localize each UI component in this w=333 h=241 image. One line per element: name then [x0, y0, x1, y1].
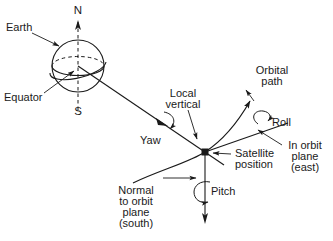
pitch-rotation-arc	[194, 182, 210, 203]
roll-label: Roll	[272, 117, 291, 129]
earth-label: Earth	[6, 22, 32, 34]
equator-label: Equator	[4, 92, 43, 104]
satellite-position-label-line2: position	[235, 159, 273, 171]
yaw-rotation-arc	[164, 112, 174, 129]
equator-leader-line	[44, 71, 74, 93]
pitch-label: Pitch	[211, 186, 235, 198]
yaw-direction-arrowhead	[156, 118, 168, 126]
orbital-path-label-line2: path	[244, 76, 300, 88]
earth-leader-line	[32, 33, 59, 46]
orbital-path-leader-line	[246, 90, 254, 101]
local-vertical-leader-line	[188, 110, 197, 139]
in-orbit-plane-label-line3: (east)	[279, 162, 331, 174]
roll-rotation-arc	[254, 111, 270, 124]
satellite-position-leader-line	[213, 153, 231, 154]
satellite-attitude-diagram: Earth Equator N S Local vertical Orbital…	[0, 0, 333, 241]
south-pole-label: S	[70, 106, 86, 118]
local-vertical-label-line2: vertical	[152, 99, 214, 111]
north-pole-label: N	[70, 5, 86, 17]
yaw-label: Yaw	[140, 135, 161, 147]
normal-to-orbit-label-line4: (south)	[108, 218, 164, 230]
satellite-position-marker	[202, 149, 209, 156]
